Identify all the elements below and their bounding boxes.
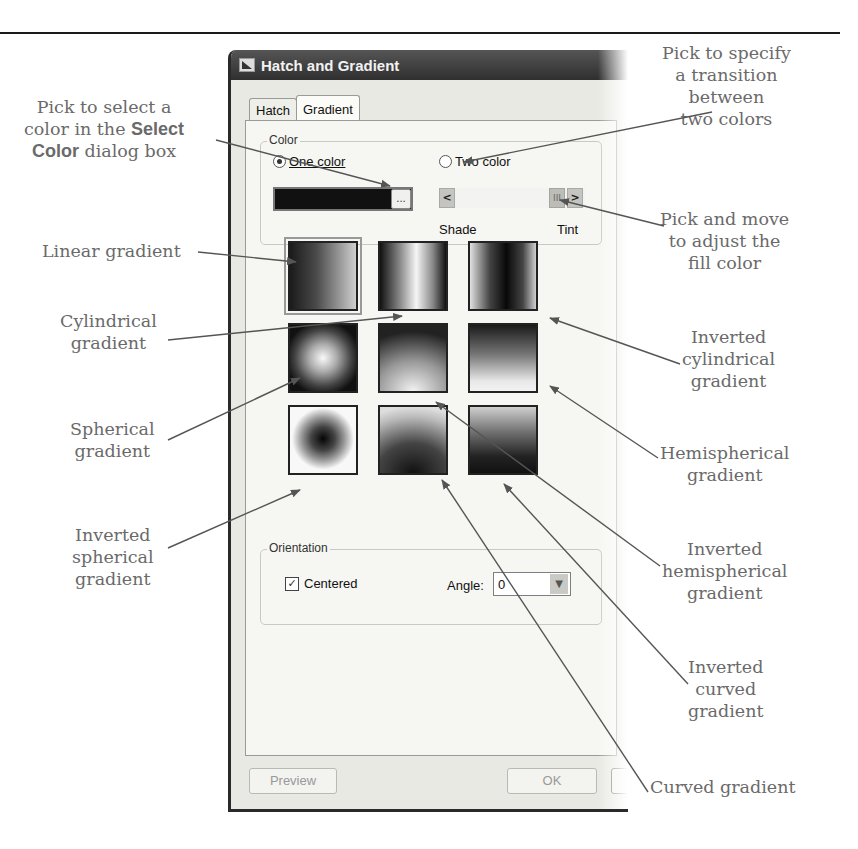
gradient-spherical[interactable] bbox=[288, 323, 358, 393]
callout-line: Inverted bbox=[72, 524, 154, 546]
checkmark-icon: ✓ bbox=[285, 577, 299, 591]
callout-line: gradient bbox=[70, 440, 155, 462]
dialog-titlebar[interactable]: Hatch and Gradient bbox=[231, 50, 628, 80]
radio-unselected-icon bbox=[439, 155, 452, 168]
callout-select-color: Pick to select a color in the Select Col… bbox=[24, 96, 184, 162]
dialog-title: Hatch and Gradient bbox=[261, 57, 399, 74]
callout-inverted-hemispherical: Inverted hemispherical gradient bbox=[662, 538, 787, 604]
callout-line: Spherical bbox=[70, 418, 155, 440]
one-color-label: One color bbox=[289, 154, 345, 169]
app-icon bbox=[239, 58, 255, 72]
color-swatch-field[interactable]: ... bbox=[273, 187, 413, 211]
tab-strip: Hatch Gradient bbox=[249, 94, 360, 122]
callout-spherical: Spherical gradient bbox=[70, 418, 155, 462]
angle-select[interactable]: 0 ▼ bbox=[493, 572, 571, 596]
callout-line: gradient bbox=[662, 582, 787, 604]
browse-color-button[interactable]: ... bbox=[391, 189, 411, 209]
one-color-radio[interactable]: One color bbox=[273, 154, 345, 169]
gradient-inverted-hemispherical[interactable] bbox=[378, 405, 448, 475]
callout-line: Pick and move bbox=[660, 208, 789, 230]
callout-adjust-fill: Pick and move to adjust the fill color bbox=[660, 208, 789, 274]
callout-line: gradient bbox=[72, 568, 154, 590]
callout-line: Inverted bbox=[682, 326, 775, 348]
callout-inverted-spherical: Inverted spherical gradient bbox=[72, 524, 154, 590]
gradient-inverted-spherical[interactable] bbox=[288, 405, 358, 475]
callout-line: Cylindrical bbox=[60, 310, 157, 332]
callout-line: Pick to specify bbox=[662, 42, 791, 64]
radio-selected-icon bbox=[273, 155, 286, 168]
gradient-tab-panel: Color One color Two color ... < III > Sh… bbox=[245, 120, 617, 756]
color-group-label: Color bbox=[267, 133, 300, 147]
gradient-inverted-cylindrical[interactable] bbox=[468, 241, 538, 311]
callout-two-colors: Pick to specify a transition between two… bbox=[662, 42, 791, 130]
orientation-group-label: Orientation bbox=[267, 541, 330, 555]
callout-line: Linear gradient bbox=[42, 240, 181, 262]
color-group: Color One color Two color ... < III > Sh… bbox=[260, 141, 602, 245]
callout-bold-text: Select bbox=[131, 119, 184, 139]
gradient-curved[interactable] bbox=[468, 323, 538, 393]
tab-gradient[interactable]: Gradient bbox=[296, 95, 360, 123]
callout-hemispherical: Hemispherical gradient bbox=[660, 442, 789, 486]
callout-line: to adjust the bbox=[660, 230, 789, 252]
callout-line: Color dialog box bbox=[24, 140, 184, 162]
callout-line: Hemispherical bbox=[660, 442, 789, 464]
callout-line: Curved gradient bbox=[650, 776, 796, 798]
angle-label: Angle: bbox=[447, 578, 484, 593]
callout-line: gradient bbox=[60, 332, 157, 354]
callout-line: color in the Select bbox=[24, 118, 184, 140]
callout-curved: Curved gradient bbox=[650, 776, 796, 798]
slider-right-arrow-icon[interactable]: > bbox=[567, 188, 583, 208]
chevron-down-icon[interactable]: ▼ bbox=[550, 574, 568, 594]
angle-value: 0 bbox=[494, 577, 550, 592]
callout-line: curved bbox=[688, 678, 763, 700]
callout-inverted-cylindrical: Inverted cylindrical gradient bbox=[682, 326, 775, 392]
gradient-linear[interactable] bbox=[288, 241, 358, 311]
callout-line: gradient bbox=[660, 464, 789, 486]
cancel-button[interactable] bbox=[611, 768, 628, 794]
callout-line: Inverted bbox=[662, 538, 787, 560]
centered-label: Centered bbox=[304, 576, 357, 591]
callout-text: color in the bbox=[24, 119, 131, 139]
slider-thumb[interactable]: III bbox=[549, 188, 565, 208]
callout-line: hemispherical bbox=[662, 560, 787, 582]
two-color-radio[interactable]: Two color bbox=[439, 154, 511, 169]
callout-line: a transition bbox=[662, 64, 791, 86]
tab-hatch[interactable]: Hatch bbox=[249, 98, 297, 122]
gradient-inverted-curved[interactable] bbox=[468, 405, 538, 475]
callout-line: cylindrical bbox=[682, 348, 775, 370]
callout-text: dialog box bbox=[79, 141, 176, 161]
ok-button[interactable]: OK bbox=[507, 768, 597, 794]
shade-tint-slider[interactable]: < III > bbox=[439, 188, 585, 208]
callout-bold-text: Color bbox=[32, 141, 79, 161]
callout-line: two colors bbox=[662, 108, 791, 130]
callout-line: spherical bbox=[72, 546, 154, 568]
callout-linear: Linear gradient bbox=[42, 240, 181, 262]
callout-cylindrical: Cylindrical gradient bbox=[60, 310, 157, 354]
callout-line: between bbox=[662, 86, 791, 108]
orientation-group: Orientation ✓ Centered Angle: 0 ▼ bbox=[260, 549, 602, 625]
slider-left-arrow-icon[interactable]: < bbox=[439, 188, 455, 208]
tint-label: Tint bbox=[557, 222, 578, 237]
page-top-rule bbox=[0, 32, 840, 34]
preview-button[interactable]: Preview bbox=[249, 768, 337, 794]
shade-label: Shade bbox=[439, 222, 477, 237]
callout-line: gradient bbox=[682, 370, 775, 392]
centered-checkbox[interactable]: ✓ Centered bbox=[285, 576, 357, 591]
callout-line: gradient bbox=[688, 700, 763, 722]
hatch-gradient-dialog: Hatch and Gradient Hatch Gradient Color … bbox=[228, 50, 628, 812]
callout-line: Pick to select a bbox=[24, 96, 184, 118]
callout-line: fill color bbox=[660, 252, 789, 274]
callout-line: Inverted bbox=[688, 656, 763, 678]
gradient-cylindrical[interactable] bbox=[378, 241, 448, 311]
callout-inverted-curved: Inverted curved gradient bbox=[688, 656, 763, 722]
two-color-label: Two color bbox=[455, 154, 511, 169]
gradient-hemispherical[interactable] bbox=[378, 323, 448, 393]
